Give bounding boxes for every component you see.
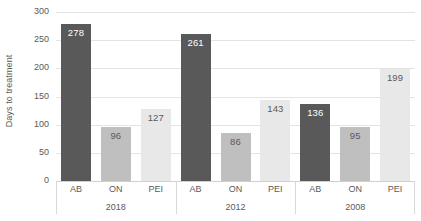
y-axis-title-text: Days to treatment	[4, 54, 14, 127]
bar: 278	[61, 24, 91, 181]
y-axis-tick-label: 200	[34, 63, 49, 72]
bar: 199	[380, 69, 410, 181]
category-tick-label: AB	[176, 184, 216, 194]
y-axis-tick-label: 300	[34, 7, 49, 16]
y-axis-tick-label: 0	[44, 176, 49, 185]
bar: 143	[260, 100, 290, 181]
bars-layer: 278961272618614313695199	[56, 12, 415, 181]
bar-value-label: 136	[300, 108, 330, 118]
bar-value-label: 95	[340, 131, 370, 141]
bar-chart: Days to treatment 300250200150100500 278…	[0, 0, 421, 221]
group-tick-label: 2008	[295, 202, 415, 212]
bar-value-label: 261	[181, 38, 211, 48]
category-tick-label: PEI	[375, 184, 415, 194]
category-axis: ABONPEIABONPEIABONPEI201820122008	[56, 181, 415, 221]
group-tick-label: 2018	[56, 202, 176, 212]
bar-value-label: 86	[221, 137, 251, 147]
category-tick-label: AB	[295, 184, 335, 194]
bar: 261	[181, 34, 211, 181]
y-axis-tick-labels: 300250200150100500	[18, 0, 53, 195]
y-axis-tick-label: 50	[39, 148, 49, 157]
bar-value-label: 96	[101, 131, 131, 141]
bar-value-label: 143	[260, 104, 290, 114]
y-axis-tick-label: 250	[34, 35, 49, 44]
bar: 96	[101, 127, 131, 181]
group-separator-tick	[295, 181, 296, 214]
plot-area: 278961272618614313695199	[56, 12, 415, 181]
y-axis-tick-label: 100	[34, 120, 49, 129]
bar-value-label: 127	[141, 113, 171, 123]
category-tick-label: PEI	[136, 184, 176, 194]
group-separator-tick	[176, 181, 177, 214]
category-tick-label: ON	[335, 184, 375, 194]
group-tick-label: 2012	[176, 202, 296, 212]
category-tick-label: AB	[56, 184, 96, 194]
y-axis-tick-label: 150	[34, 92, 49, 101]
axis-right-edge-tick	[414, 181, 415, 214]
bar-value-label: 199	[380, 73, 410, 83]
category-tick-label: ON	[96, 184, 136, 194]
bar: 86	[221, 133, 251, 181]
bar: 136	[300, 104, 330, 181]
axis-left-edge-tick	[56, 181, 57, 214]
y-axis-title: Days to treatment	[0, 0, 18, 181]
bar: 127	[141, 109, 171, 181]
bar-value-label: 278	[61, 28, 91, 38]
bar: 95	[340, 127, 370, 181]
category-tick-label: ON	[216, 184, 256, 194]
category-tick-label: PEI	[255, 184, 295, 194]
